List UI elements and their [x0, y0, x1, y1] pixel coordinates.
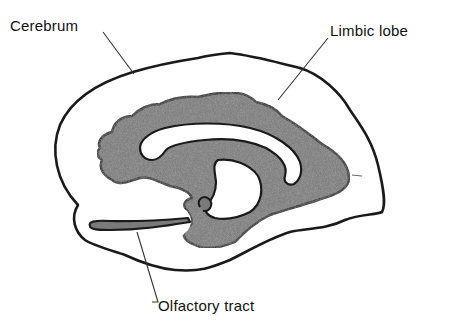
- limbic-lobe-label: Limbic lobe: [330, 22, 408, 39]
- olfactory-tract-label: Olfactory tract: [158, 297, 254, 314]
- cerebrum-leader-line: [103, 32, 134, 74]
- cerebrum-label: Cerebrum: [10, 17, 78, 34]
- olfactory-tract: [90, 218, 190, 230]
- limbic-lobe-leader-line: [278, 38, 328, 100]
- brain-diagram: Cerebrum Limbic lobe Olfactory tract: [0, 0, 459, 331]
- brain-illustration: [0, 0, 459, 331]
- tick-mark: [352, 175, 362, 176]
